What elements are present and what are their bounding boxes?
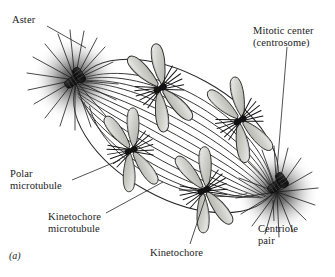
label-centriole-pair: Centriole pair xyxy=(258,223,298,246)
aster-left xyxy=(27,30,119,130)
panel-label: (a) xyxy=(9,250,21,261)
label-kinetochore: Kinetochore xyxy=(150,247,203,259)
label-polar-microtubule: Polar microtubule xyxy=(10,168,62,191)
label-aster: Aster xyxy=(12,14,35,26)
label-kinetochore-microtubule: Kinetochore microtubule xyxy=(48,211,101,234)
leader-kinetochore-microtubule xyxy=(106,182,163,213)
label-mitotic-center: Mitotic center (centrosome) xyxy=(253,25,314,48)
figure-mitotic-spindle: Aster Mitotic center (centrosome) Polar … xyxy=(0,0,335,277)
leader-polar-microtubule xyxy=(72,160,120,180)
